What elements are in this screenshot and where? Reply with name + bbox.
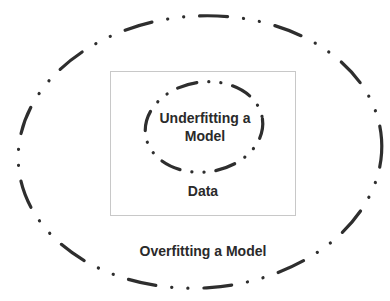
underfitting-label-line2: Model [150,127,260,145]
underfitting-label: Underfitting a Model [150,109,260,145]
overfitting-label: Overfitting a Model [110,242,296,260]
underfitting-label-line1: Underfitting a [150,109,260,127]
diagram-canvas: Underfitting a Model Data Overfitting a … [0,0,390,301]
data-label: Data [150,182,256,200]
